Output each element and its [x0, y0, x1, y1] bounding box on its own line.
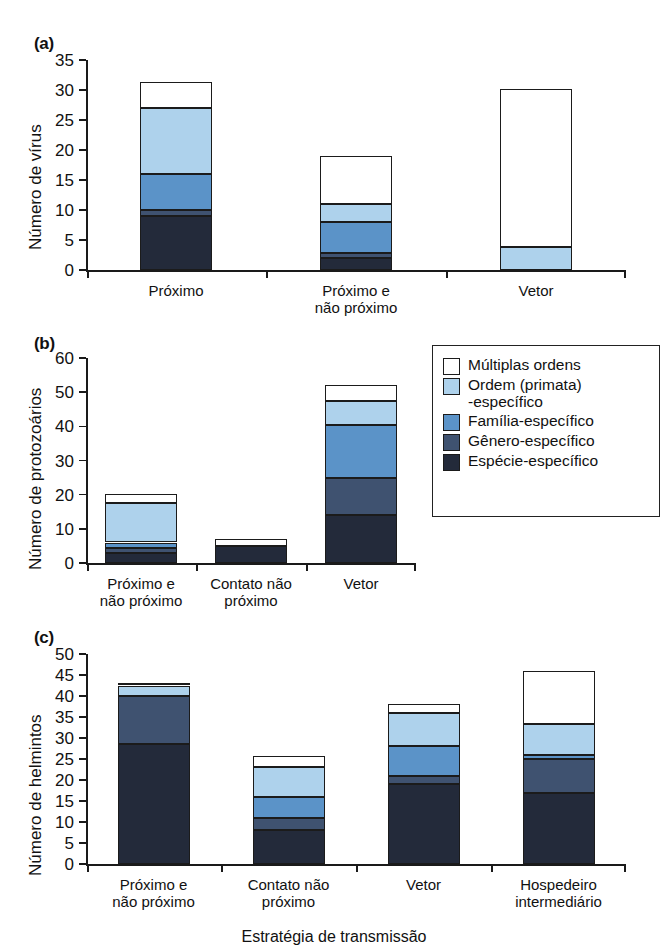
x-axis-line [86, 563, 416, 565]
bar-segment[interactable] [325, 515, 397, 563]
legend-item-especie[interactable]: Espécie-específico [443, 452, 651, 471]
y-tick-label: 5 [28, 232, 74, 249]
x-axis-category-label: Vetor [356, 876, 491, 893]
y-tick [79, 59, 86, 61]
y-tick [79, 426, 86, 428]
legend-swatch-ordem [443, 378, 460, 395]
bar-segment[interactable] [118, 683, 190, 685]
bar-segment[interactable] [325, 478, 397, 516]
y-tick-label: 30 [28, 452, 74, 469]
x-tick [414, 564, 416, 571]
bar-2[interactable] [215, 358, 287, 563]
bar-segment[interactable] [118, 744, 190, 864]
bar-segment[interactable] [388, 704, 460, 712]
bar-1[interactable] [140, 60, 212, 270]
x-axis-category-label: Vetor [306, 575, 416, 592]
bar-segment[interactable] [140, 108, 212, 174]
bar-segment[interactable] [325, 385, 397, 401]
bar-segment[interactable] [140, 174, 212, 210]
bar-segment[interactable] [388, 776, 460, 784]
y-tick [79, 562, 86, 564]
panel-b-y-axis-label: Número de protozoários [26, 388, 46, 570]
bar-segment[interactable] [320, 253, 392, 258]
y-tick [79, 119, 86, 121]
bar-segment[interactable] [215, 546, 287, 563]
y-tick-label: 5 [28, 835, 74, 852]
y-tick-label: 0 [28, 262, 74, 279]
bar-segment[interactable] [105, 494, 177, 503]
bar-segment[interactable] [325, 401, 397, 425]
y-tick [79, 821, 86, 823]
bar-segment[interactable] [388, 713, 460, 747]
bar-segment[interactable] [105, 548, 177, 553]
bar-1[interactable] [118, 654, 190, 864]
bar-segment[interactable] [105, 503, 177, 542]
bar-segment[interactable] [500, 89, 572, 247]
legend-item-genero[interactable]: Gênero-específico [443, 432, 651, 451]
y-tick-label: 35 [28, 709, 74, 726]
y-tick-label: 10 [28, 814, 74, 831]
bar-segment[interactable] [105, 543, 177, 548]
legend-item-familia[interactable]: Família-específico [443, 412, 651, 431]
x-axis-category-label: Próximo e não próximo [86, 876, 221, 911]
legend-label-ordem: Ordem (primata) -específico [468, 376, 582, 411]
bar-segment[interactable] [388, 784, 460, 864]
legend-box: Múltiplas ordensOrdem (primata) -específ… [432, 345, 660, 517]
bar-segment[interactable] [253, 767, 325, 796]
bar-segment[interactable] [105, 553, 177, 563]
x-tick [87, 564, 89, 571]
legend-swatch-familia [443, 414, 460, 431]
legend-label-especie: Espécie-específico [468, 452, 598, 469]
bar-segment[interactable] [523, 793, 595, 864]
panel-a-plot: 05101520253035PróximoPróximo e não próxi… [86, 60, 626, 270]
bar-2[interactable] [253, 654, 325, 864]
x-tick [266, 271, 268, 278]
bar-segment[interactable] [253, 797, 325, 818]
legend-item-ordem[interactable]: Ordem (primata) -específico [443, 376, 651, 411]
y-tick [79, 269, 86, 271]
bar-segment[interactable] [140, 216, 212, 270]
y-tick [79, 779, 86, 781]
x-axis-category-label: Hospedeiro intermediário [491, 876, 626, 911]
bar-segment[interactable] [253, 818, 325, 831]
bar-segment[interactable] [320, 204, 392, 222]
x-axis-category-label: Próximo [86, 282, 266, 299]
bar-segment[interactable] [523, 724, 595, 755]
y-tick-label: 25 [28, 112, 74, 129]
bar-segment[interactable] [320, 156, 392, 204]
y-tick [79, 528, 86, 530]
legend-swatch-multiplas [443, 358, 460, 375]
legend-label-genero: Gênero-específico [468, 432, 595, 449]
bar-segment[interactable] [500, 247, 572, 270]
bar-3[interactable] [325, 358, 397, 563]
y-tick [79, 89, 86, 91]
bar-segment[interactable] [523, 759, 595, 793]
x-tick [624, 271, 626, 278]
bar-segment[interactable] [523, 755, 595, 759]
x-tick [356, 865, 358, 872]
bar-segment[interactable] [253, 756, 325, 767]
panel-c: (c) Número de helmintos 0510152025303540… [0, 618, 668, 952]
bar-segment[interactable] [140, 210, 212, 216]
bar-segment[interactable] [320, 258, 392, 270]
y-tick [79, 494, 86, 496]
bar-segment[interactable] [388, 746, 460, 775]
bar-4[interactable] [523, 654, 595, 864]
bar-segment[interactable] [325, 425, 397, 477]
bar-segment[interactable] [523, 671, 595, 724]
bar-segment[interactable] [253, 830, 325, 864]
bar-1[interactable] [105, 358, 177, 563]
y-tick [79, 737, 86, 739]
y-tick [79, 653, 86, 655]
bar-segment[interactable] [118, 696, 190, 744]
bar-3[interactable] [500, 60, 572, 270]
bar-2[interactable] [320, 60, 392, 270]
bar-segment[interactable] [118, 686, 190, 697]
bar-segment[interactable] [140, 82, 212, 108]
bar-segment[interactable] [215, 539, 287, 546]
legend-swatch-genero [443, 434, 460, 451]
bar-segment[interactable] [320, 222, 392, 253]
x-axis-category-label: Contato não próximo [221, 876, 356, 911]
bar-3[interactable] [388, 654, 460, 864]
legend-item-multiplas[interactable]: Múltiplas ordens [443, 356, 651, 375]
